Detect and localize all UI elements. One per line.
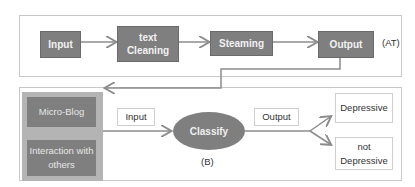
node-text-cleaning: text Cleaning [117,26,179,62]
classify-ellipse: Classify [173,112,245,150]
result-depressive: Depressive [335,93,393,123]
input-label-box: Input [117,108,155,126]
source-micro-blog: Micro-Blog [27,97,96,127]
source-interaction: Interaction with others [27,140,96,176]
output-label-box: Output [254,108,299,126]
node-input: Input [40,31,81,58]
node-steaming: Steaming [210,31,273,56]
tag-at: (AT) [382,37,400,48]
tag-b: (B) [201,156,214,167]
result-not-depressive: not Depressive [335,137,393,170]
node-output: Output [318,31,374,58]
